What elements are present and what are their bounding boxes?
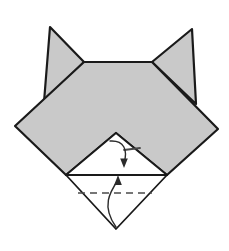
origami-diagram-root [0, 0, 229, 251]
origami-figure [0, 0, 229, 251]
